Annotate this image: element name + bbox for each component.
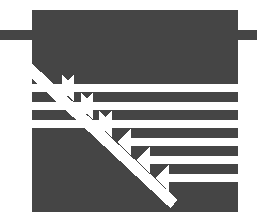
crossing-arrows-logo: Crossing Arrows Logo Mark (0, 0, 257, 219)
left-connector-bar (0, 30, 34, 40)
right-connector-bar (236, 30, 257, 40)
logo-canvas: Crossing Arrows Logo Mark (0, 0, 257, 219)
ink-layer (0, 10, 257, 212)
